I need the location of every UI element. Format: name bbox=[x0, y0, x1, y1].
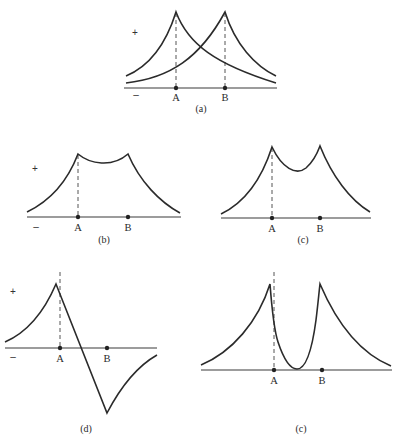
point-c-A bbox=[270, 216, 274, 220]
label-A: A bbox=[268, 223, 276, 234]
panel-e: A B (c) bbox=[201, 272, 392, 435]
plus-sign: + bbox=[10, 286, 16, 297]
curve-a-B bbox=[126, 12, 276, 83]
panel-a: + – A B (a) bbox=[124, 12, 277, 115]
label-A: A bbox=[172, 92, 180, 103]
minus-sign: – bbox=[10, 351, 16, 362]
curve-b bbox=[27, 154, 180, 213]
label-B: B bbox=[124, 222, 131, 233]
orbital-diagram: + – A B (a) + – A B (b) A B (c) + – bbox=[0, 0, 405, 440]
caption-e: (c) bbox=[295, 423, 306, 435]
caption-c: (c) bbox=[297, 234, 308, 246]
curve-c bbox=[221, 146, 370, 214]
label-B: B bbox=[103, 353, 110, 364]
panel-c: A B (c) bbox=[221, 146, 371, 246]
caption-d: (d) bbox=[80, 423, 92, 435]
point-b-A bbox=[76, 215, 80, 219]
panel-d: + – A B (d) bbox=[5, 272, 157, 435]
point-b-B bbox=[126, 215, 130, 219]
label-A: A bbox=[270, 375, 278, 386]
label-A: A bbox=[56, 353, 64, 364]
point-a-B bbox=[223, 86, 227, 90]
plus-sign: + bbox=[132, 27, 138, 38]
minus-sign: – bbox=[133, 89, 139, 100]
curve-e bbox=[201, 284, 391, 369]
point-a-A bbox=[174, 86, 178, 90]
panel-b: + – A B (b) bbox=[27, 154, 181, 246]
caption-b: (b) bbox=[98, 234, 110, 246]
point-e-B bbox=[320, 368, 324, 372]
label-B: B bbox=[318, 375, 325, 386]
label-A: A bbox=[74, 222, 82, 233]
label-B: B bbox=[316, 223, 323, 234]
plus-sign: + bbox=[32, 163, 38, 174]
caption-a: (a) bbox=[195, 103, 206, 115]
label-B: B bbox=[221, 92, 228, 103]
point-c-B bbox=[318, 216, 322, 220]
point-d-A bbox=[58, 346, 62, 350]
minus-sign: – bbox=[33, 221, 39, 232]
point-d-B bbox=[105, 346, 109, 350]
point-e-A bbox=[272, 368, 276, 372]
